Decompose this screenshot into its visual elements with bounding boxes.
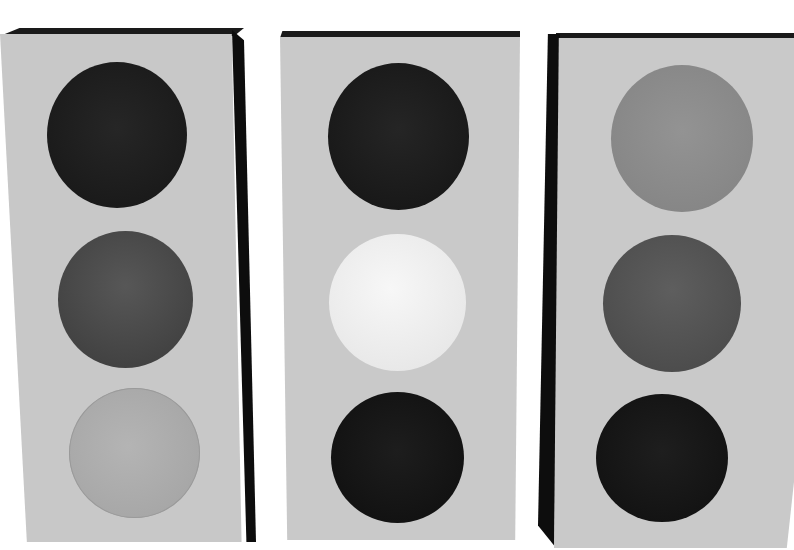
left-lamp-bottom xyxy=(69,388,200,518)
right-lamp-bottom xyxy=(596,394,728,522)
left-lamp-middle xyxy=(58,231,193,368)
scene-description: Three grayscale traffic light housings, … xyxy=(0,0,1,1)
center-lamp-middle xyxy=(329,234,466,371)
center-lamp-top xyxy=(328,63,469,210)
center-lamp-bottom xyxy=(331,392,464,523)
left-lamp-top xyxy=(47,62,187,208)
center-housing-top-edge xyxy=(280,31,520,38)
right-lamp-top xyxy=(611,65,753,212)
right-lamp-middle xyxy=(603,235,741,372)
